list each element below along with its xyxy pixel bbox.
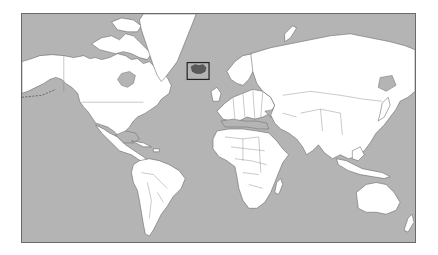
world-map (21, 13, 416, 243)
iceland (191, 65, 206, 74)
map-canvas (22, 14, 415, 242)
hispaniola (153, 149, 159, 152)
